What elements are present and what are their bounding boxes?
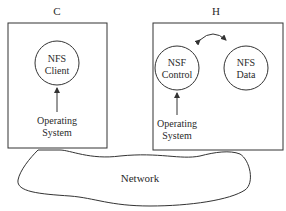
nfs-client-line2: Client <box>45 65 70 76</box>
nsf-control-line2: Control <box>162 69 193 80</box>
host-h-os-line1: Operating <box>157 118 197 129</box>
host-c-os-line1: Operating <box>37 115 77 126</box>
nfs-client-line1: NFS <box>48 53 66 64</box>
host-h-os-line2: System <box>162 130 192 141</box>
nfs-data-line2: Data <box>237 69 256 80</box>
nsf-control-line1: NSF <box>168 57 187 68</box>
host-c-os-line2: System <box>42 127 72 138</box>
network-label: Network <box>121 172 160 184</box>
host-h-label: H <box>212 5 220 17</box>
host-c-label: C <box>53 5 60 17</box>
nfs-data-line1: NFS <box>237 57 255 68</box>
nfs-diagram: Network C NFS Client Operating System H … <box>0 0 286 211</box>
